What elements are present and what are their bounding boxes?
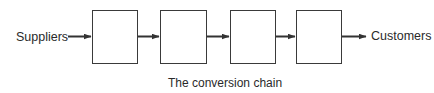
stage-box-1 — [92, 10, 138, 64]
stage-box-3 — [230, 10, 276, 64]
conversion-chain-diagram: Suppliers Customers The conversion chain — [0, 0, 434, 93]
stage-box-4 — [296, 10, 342, 64]
stage-box-2 — [160, 10, 207, 64]
suppliers-label: Suppliers — [16, 30, 68, 44]
diagram-caption: The conversion chain — [168, 76, 282, 90]
customers-label: Customers — [371, 29, 431, 43]
